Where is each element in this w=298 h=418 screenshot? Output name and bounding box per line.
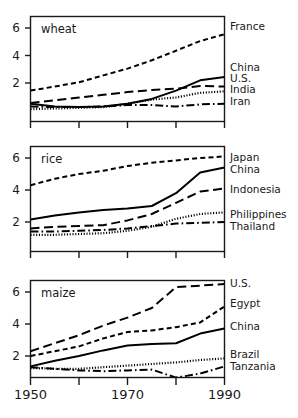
panel-wheat-yticklabel-6: 6 — [12, 21, 20, 35]
legend-label-france: France — [230, 20, 265, 32]
panel-rice: 6 4 2 rice Japan China Indonesia Philipp… — [12, 147, 286, 259]
panel-rice-yticklabel-6: 6 — [12, 151, 20, 165]
panel-maize-yticklabel-2: 2 — [12, 349, 20, 363]
chart-svg: 6 4 2 wheat France China U.S. India — [0, 0, 298, 418]
x-axis-labels: 1950 1970 1990 — [14, 387, 241, 402]
legend-label-philippines: Philippines — [230, 208, 287, 220]
series-china-maize-line — [31, 328, 225, 366]
xticklabel-1990: 1990 — [208, 387, 241, 402]
xticklabel-1970: 1970 — [111, 387, 144, 402]
legend-label-china-maize: China — [230, 320, 260, 332]
legend-label-brazil: Brazil — [230, 348, 259, 360]
panel-maize-yticklabel-4: 4 — [12, 317, 20, 331]
legend-label-japan: Japan — [229, 151, 259, 163]
legend-label-tanzania: Tanzania — [229, 360, 276, 372]
legend-label-thailand: Thailand — [229, 220, 275, 232]
legend-label-egypt: Egypt — [230, 297, 260, 309]
legend-label-us-maize: U.S. — [230, 277, 251, 289]
panel-maize-yticklabel-6: 6 — [12, 285, 20, 299]
yield-trends-figure: 6 4 2 wheat France China U.S. India — [0, 0, 298, 418]
panel-rice-title: rice — [41, 152, 62, 166]
panel-wheat: 6 4 2 wheat France China U.S. India — [12, 17, 265, 129]
panel-maize: 6 4 2 maize U.S. Egypt China Brazil Tanz… — [12, 277, 275, 385]
legend-label-india: India — [230, 83, 256, 95]
panel-rice-yticklabel-2: 2 — [12, 215, 20, 229]
legend-label-china-rice: China — [230, 163, 260, 175]
legend-label-indonesia: Indonesia — [230, 183, 281, 195]
panel-maize-title: maize — [41, 286, 76, 300]
series-egypt-line — [31, 306, 225, 356]
xticklabel-1950: 1950 — [14, 387, 47, 402]
panel-rice-yticklabel-4: 4 — [12, 183, 20, 197]
series-tanzania-line — [31, 366, 225, 377]
panel-wheat-yticklabel-4: 4 — [12, 49, 20, 63]
panel-wheat-title: wheat — [41, 22, 77, 36]
panel-wheat-yticklabel-2: 2 — [12, 76, 20, 90]
legend-label-iran: Iran — [230, 95, 251, 107]
